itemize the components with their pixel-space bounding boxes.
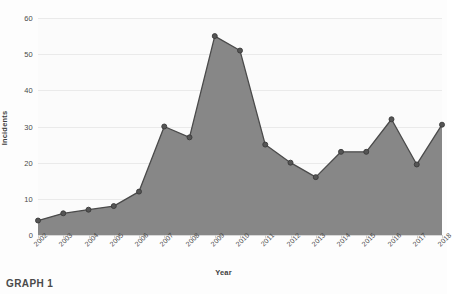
data-point-2018 bbox=[440, 122, 445, 127]
y-tick-label-0: 0 bbox=[29, 231, 33, 240]
data-point-2002 bbox=[36, 218, 41, 223]
chart-area: Incidents 0102030405060 2002200320042005… bbox=[0, 0, 447, 262]
y-tick-label-10: 10 bbox=[24, 194, 33, 203]
data-point-2005 bbox=[111, 204, 116, 209]
y-tick-label-60: 60 bbox=[24, 14, 33, 23]
x-tick-label-2002: 2002 bbox=[32, 231, 48, 247]
data-point-2003 bbox=[61, 211, 66, 216]
x-axis-ticks: 2002200320042005200620072008200920102011… bbox=[38, 237, 442, 267]
data-point-2004 bbox=[86, 207, 91, 212]
plot-area: 0102030405060 bbox=[38, 18, 442, 235]
data-point-2011 bbox=[263, 142, 268, 147]
data-point-2010 bbox=[238, 48, 243, 53]
area-fill bbox=[38, 36, 442, 235]
y-tick-label-20: 20 bbox=[24, 158, 33, 167]
data-point-2017 bbox=[414, 162, 419, 167]
figure-caption: GRAPH 1 bbox=[6, 278, 53, 289]
data-point-2016 bbox=[389, 117, 394, 122]
data-point-2006 bbox=[137, 189, 142, 194]
data-point-2009 bbox=[212, 34, 217, 39]
y-axis-title: Incidents bbox=[0, 111, 9, 146]
data-point-2012 bbox=[288, 160, 293, 165]
data-point-2007 bbox=[162, 124, 167, 129]
data-point-2014 bbox=[339, 149, 344, 154]
x-axis-title: Year bbox=[0, 268, 447, 277]
y-tick-label-40: 40 bbox=[24, 86, 33, 95]
area-series bbox=[38, 18, 442, 235]
y-tick-label-50: 50 bbox=[24, 50, 33, 59]
data-point-2015 bbox=[364, 149, 369, 154]
y-tick-label-30: 30 bbox=[24, 122, 33, 131]
data-point-2013 bbox=[313, 175, 318, 180]
data-point-2008 bbox=[187, 135, 192, 140]
